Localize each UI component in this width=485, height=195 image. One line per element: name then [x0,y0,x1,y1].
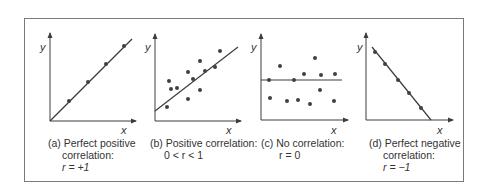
data-point [186,70,190,74]
caption-r-value: r = −1 [369,161,461,173]
data-point [278,64,282,68]
data-point [169,87,173,91]
caption-title: (c) No correlation: [261,137,344,149]
y-axis-label: y [250,41,258,53]
data-point [191,77,195,81]
data-point [175,86,179,90]
caption-panel-a: (a) Perfect positive correlation: r = +1 [48,137,136,173]
data-point [396,78,400,82]
data-point [167,79,171,83]
data-point [268,96,272,100]
x-axis-label: x [225,124,232,136]
y-axis-label: y [356,41,364,53]
fit-line [155,47,238,111]
caption-panel-b: (b) Positive correlation: 0 < r < 1 [150,137,257,161]
data-point [86,80,90,84]
data-point [165,105,169,109]
x-axis-label: x [120,124,127,136]
panel-d-plot: y x [356,33,453,136]
caption-title: (d) Perfect negative [369,137,461,149]
data-point [67,99,71,103]
panel-b-plot: y x [144,34,241,136]
data-point [122,44,126,48]
data-point [407,91,411,95]
caption-r-value: 0 < r < 1 [150,149,257,161]
data-point [302,72,306,76]
data-point [186,97,190,101]
y-axis-label: y [39,41,47,53]
data-point [313,56,317,60]
data-point [308,102,312,106]
caption-panel-c: (c) No correlation: r = 0 [261,137,344,161]
data-point [318,88,322,92]
caption-subtitle: correlation: [48,149,136,161]
data-point [198,88,202,92]
data-point [203,69,207,73]
caption-subtitle: correlation: [369,149,461,161]
caption-r-value: r = +1 [48,161,136,173]
data-point [213,65,217,69]
fit-line [50,39,132,121]
data-point [292,78,296,82]
data-point [373,50,377,54]
caption-panel-d: (d) Perfect negative correlation: r = −1 [369,137,461,173]
data-point [383,62,387,66]
data-point [319,73,323,77]
data-point [333,72,337,76]
data-point [419,106,423,110]
caption-title: (a) Perfect positive [48,137,136,149]
data-point [267,78,271,82]
y-axis-label: y [144,41,152,53]
x-axis-label: x [330,124,337,136]
panel-c-plot: y x [250,34,348,136]
data-point [332,99,336,103]
panel-a-plot: y x [39,33,136,136]
data-point [296,98,300,102]
data-point [218,49,222,53]
caption-r-value: r = 0 [261,149,344,161]
data-point [285,99,289,103]
x-axis-label: x [436,124,443,136]
data-point [198,59,202,63]
caption-title: (b) Positive correlation: [150,137,257,149]
data-point [104,62,108,66]
